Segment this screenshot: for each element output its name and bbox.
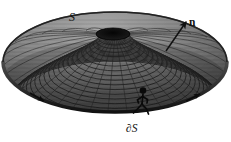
stokes-theorem-figure: S n ∂S (0, 0, 231, 142)
normal-vector-label-n: n (189, 17, 195, 29)
apex-hole (96, 28, 130, 40)
surface-label-S: S (69, 11, 75, 23)
boundary-label-partial-S: ∂S (126, 123, 137, 135)
dome-surface-group (0, 12, 231, 142)
surface-diagram-svg (0, 0, 231, 142)
stick-figure-torso (142, 94, 143, 104)
dome-vignette (0, 40, 231, 132)
stick-figure-head (140, 87, 147, 94)
